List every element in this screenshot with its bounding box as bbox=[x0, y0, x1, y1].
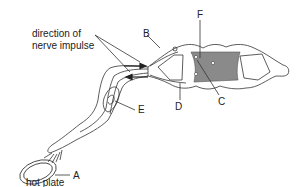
leader-E bbox=[115, 101, 135, 110]
label-A: A bbox=[73, 170, 80, 181]
label-B: B bbox=[143, 28, 150, 39]
grey-matter bbox=[191, 52, 240, 82]
label-direction-line1: direction of bbox=[32, 28, 81, 39]
label-F: F bbox=[197, 9, 203, 20]
right-white-matter bbox=[240, 54, 270, 80]
label-C: C bbox=[218, 96, 225, 107]
label-D: D bbox=[175, 101, 182, 112]
label-hot-plate: hot plate bbox=[26, 177, 64, 187]
left-white-matter bbox=[158, 55, 183, 80]
label-E: E bbox=[138, 104, 145, 115]
sensory-neuron-root bbox=[150, 52, 178, 66]
motor-neuron-root bbox=[150, 75, 186, 83]
label-direction-line2: nerve impulse bbox=[32, 40, 94, 51]
